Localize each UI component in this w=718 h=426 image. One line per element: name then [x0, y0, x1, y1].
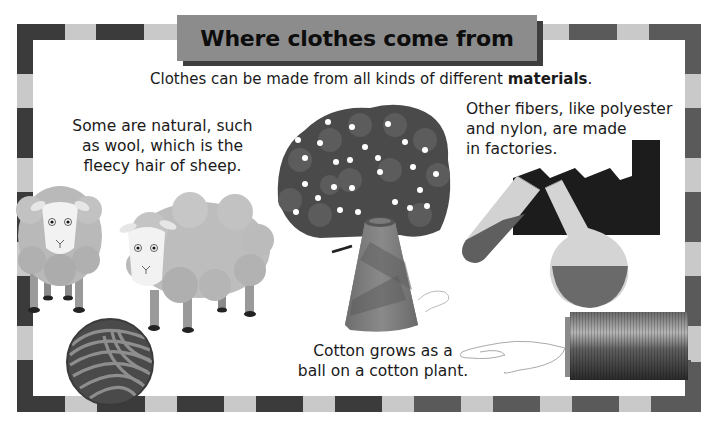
caption-line: in factories. [466, 139, 706, 159]
cotton-caption: Cotton grows as a ball on a cotton plant… [278, 341, 488, 381]
natural-fibers-caption: Some are natural, such as wool, which is… [55, 116, 270, 176]
caption-line: ball on a cotton plant. [278, 361, 488, 381]
sheep-icon [16, 186, 102, 313]
caption-line: and nylon, are made [466, 119, 706, 139]
yarn-ball-icon [67, 319, 153, 405]
caption-line: fleecy hair of sheep. [55, 156, 270, 176]
intro-text: Clothes can be made from all kinds of di… [150, 69, 570, 89]
intro-text-bold: materials [508, 70, 588, 88]
caption-line: Other fibers, like polyester [466, 99, 706, 119]
cotton-plant-icon [278, 105, 451, 238]
intro-text-end: . [588, 70, 593, 88]
sheep-icon [118, 192, 274, 333]
caption-line: Some are natural, such [55, 116, 270, 136]
caption-line: Cotton grows as a [278, 341, 488, 361]
synthetic-fibers-caption: Other fibers, like polyester and nylon, … [466, 99, 706, 159]
caption-line: as wool, which is the [55, 136, 270, 156]
intro-text-lead: Clothes can be made from all kinds of di… [150, 70, 508, 88]
thread-spool-icon [565, 312, 701, 380]
